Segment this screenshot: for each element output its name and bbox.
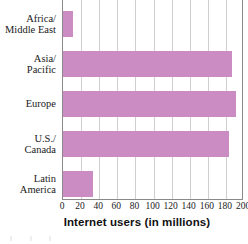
x-tick-20: 20 bbox=[75, 201, 85, 211]
x-tick-140: 140 bbox=[182, 201, 196, 211]
bar-1 bbox=[63, 51, 232, 77]
y-axis-label-1: Asia/Pacific bbox=[0, 53, 56, 76]
scan-artifact bbox=[6, 236, 76, 241]
y-axis-label-line: Pacific bbox=[0, 64, 56, 76]
x-axis-tick-labels: 020406080100120140160180200 bbox=[62, 201, 243, 214]
x-tick-0: 0 bbox=[60, 201, 65, 211]
x-tick-80: 80 bbox=[130, 201, 140, 211]
x-tick-200: 200 bbox=[236, 201, 248, 211]
x-axis-title: Internet users (in millions) bbox=[0, 216, 248, 228]
y-axis-label-line: Asia/ bbox=[0, 53, 56, 65]
y-axis-label-line: Middle East bbox=[0, 24, 56, 36]
x-tick-180: 180 bbox=[218, 201, 232, 211]
y-axis-label-line: America bbox=[0, 184, 56, 196]
x-tick-40: 40 bbox=[93, 201, 103, 211]
bar-0 bbox=[63, 11, 73, 37]
y-axis-label-line: Europe bbox=[0, 98, 56, 110]
x-tick-100: 100 bbox=[145, 201, 159, 211]
y-axis-category-labels: Africa/Middle EastAsia/PacificEuropeU.S.… bbox=[0, 0, 60, 200]
bar-row bbox=[63, 171, 244, 197]
bar-row bbox=[63, 51, 244, 77]
bar-2 bbox=[63, 91, 236, 117]
y-axis-label-3: U.S./Canada bbox=[0, 133, 56, 156]
y-axis-label-2: Europe bbox=[0, 98, 56, 110]
x-tick-160: 160 bbox=[200, 201, 214, 211]
y-axis-label-line: Africa/ bbox=[0, 13, 56, 25]
bar-series bbox=[63, 0, 242, 199]
y-axis-label-0: Africa/Middle East bbox=[0, 13, 56, 36]
y-axis-label-line: Latin bbox=[0, 173, 56, 185]
bar-row bbox=[63, 91, 244, 117]
bar-chart: Africa/Middle EastAsia/PacificEuropeU.S.… bbox=[0, 0, 248, 244]
x-axis-title-text: Internet users (in millions) bbox=[38, 216, 211, 228]
bar-3 bbox=[63, 131, 229, 157]
x-tick-60: 60 bbox=[112, 201, 122, 211]
y-axis-label-4: LatinAmerica bbox=[0, 173, 56, 196]
y-axis-label-line: U.S./ bbox=[0, 133, 56, 145]
y-axis-label-line: Canada bbox=[0, 144, 56, 156]
bar-4 bbox=[63, 171, 93, 197]
bar-row bbox=[63, 131, 244, 157]
bar-row bbox=[63, 11, 244, 37]
plot-area bbox=[62, 0, 243, 200]
x-tick-120: 120 bbox=[163, 201, 177, 211]
